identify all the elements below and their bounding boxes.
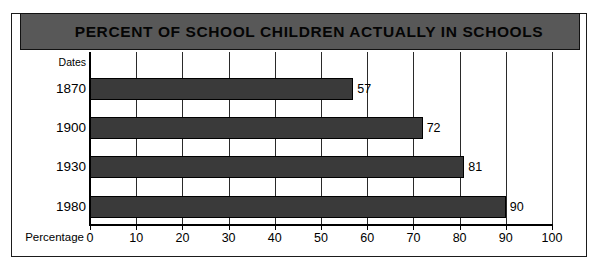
axis-tick-mark bbox=[321, 224, 322, 230]
axis-tick-mark bbox=[506, 224, 507, 230]
category-label: 1930 bbox=[16, 156, 86, 178]
axis-tick-label: 70 bbox=[398, 231, 428, 245]
axis-tick-mark bbox=[90, 224, 91, 230]
axis-tick-label: 100 bbox=[537, 231, 567, 245]
bar bbox=[90, 78, 353, 100]
axis-tick-label: 60 bbox=[352, 231, 382, 245]
bar-value-label: 57 bbox=[357, 78, 371, 100]
axis-tick-label: 80 bbox=[445, 231, 475, 245]
axis-tick-mark bbox=[367, 224, 368, 230]
axis-tick-label: 40 bbox=[260, 231, 290, 245]
bar bbox=[90, 117, 423, 139]
axis-tick-mark bbox=[229, 224, 230, 230]
axis-tick-mark bbox=[413, 224, 414, 230]
axis-tick-mark bbox=[136, 224, 137, 230]
gridline bbox=[552, 52, 553, 224]
chart-figure: PERCENT OF SCHOOL CHILDREN ACTUALLY IN S… bbox=[0, 0, 599, 271]
bar bbox=[90, 196, 506, 218]
axis-tick-mark bbox=[460, 224, 461, 230]
bar-value-label: 72 bbox=[427, 117, 441, 139]
category-label: 1870 bbox=[16, 78, 86, 100]
axis-tick-label: 20 bbox=[167, 231, 197, 245]
axis-tick-label: 90 bbox=[491, 231, 521, 245]
axis-tick-mark bbox=[182, 224, 183, 230]
category-label: 1980 bbox=[16, 196, 86, 218]
axis-tick-label: 50 bbox=[306, 231, 336, 245]
gridline bbox=[506, 52, 507, 224]
axis-tick-label: 0 bbox=[75, 231, 105, 245]
bar bbox=[90, 156, 464, 178]
value-axis-label: Percentage bbox=[16, 231, 84, 243]
axis-tick-label: 10 bbox=[121, 231, 151, 245]
category-label: 1900 bbox=[16, 117, 86, 139]
axis-tick-label: 30 bbox=[214, 231, 244, 245]
page-title: PERCENT OF SCHOOL CHILDREN ACTUALLY IN S… bbox=[57, 23, 544, 41]
category-axis-header: Dates bbox=[16, 56, 86, 68]
axis-tick-mark bbox=[275, 224, 276, 230]
bar-value-label: 90 bbox=[510, 196, 524, 218]
chart-title-banner: PERCENT OF SCHOOL CHILDREN ACTUALLY IN S… bbox=[20, 13, 580, 50]
axis-tick-mark bbox=[552, 224, 553, 230]
bar-value-label: 81 bbox=[468, 156, 482, 178]
